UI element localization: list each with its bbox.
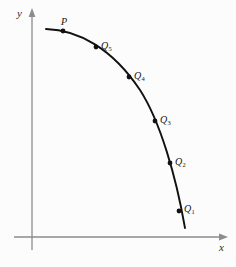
point-label-subscript: 5: [109, 45, 112, 52]
axes-group: [14, 8, 228, 250]
x-axis-arrowhead: [219, 234, 228, 241]
point-label-subscript: 2: [183, 161, 186, 168]
point-label-q2: Q2: [175, 157, 185, 167]
point-label-q3: Q3: [160, 115, 170, 125]
y-axis-arrowhead: [29, 8, 36, 17]
point-label-q5: Q5: [101, 41, 111, 51]
point-label-base: Q: [175, 156, 182, 167]
point-label-subscript: 1: [192, 208, 195, 215]
point-label-base: Q: [184, 203, 191, 214]
point-label-base: Q: [160, 114, 167, 125]
point-label-base: P: [61, 16, 67, 27]
point-label-subscript: 4: [142, 75, 145, 82]
x-axis-label: x: [219, 242, 224, 253]
point-label-base: Q: [134, 70, 141, 81]
figure-canvas: [0, 0, 236, 267]
curve-point-p: [61, 29, 66, 34]
curve-point-q2: [168, 161, 173, 166]
secant-lines-figure: y x PQ5Q4Q3Q2Q1: [0, 0, 236, 267]
point-label-q1: Q1: [184, 204, 194, 214]
point-label-p: P: [61, 17, 67, 27]
point-label-base: Q: [101, 40, 108, 51]
curve-point-q5: [94, 45, 99, 50]
point-label-subscript: 3: [168, 119, 171, 126]
curve-point-q4: [127, 75, 132, 80]
curve-point-q3: [153, 119, 158, 124]
y-axis-label: y: [17, 8, 22, 19]
curve-point-q1: [177, 209, 182, 214]
point-label-q4: Q4: [134, 71, 144, 81]
curve-path: [46, 29, 185, 228]
curve-group: [46, 29, 185, 228]
